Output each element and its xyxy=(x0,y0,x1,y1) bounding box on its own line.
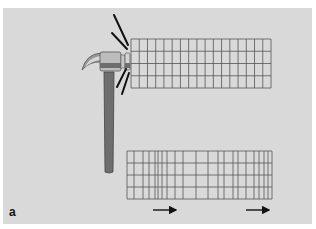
top-grid xyxy=(131,39,271,88)
hammer xyxy=(82,52,130,173)
hammer-head xyxy=(100,52,121,71)
panel-label: a xyxy=(9,205,16,219)
diagram-canvas xyxy=(0,0,316,229)
bottom-grid xyxy=(127,151,272,199)
hammer-handle xyxy=(104,72,114,173)
